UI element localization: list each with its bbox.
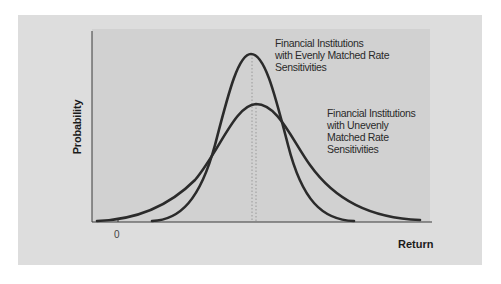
annotation-unevenly-line1: Financial Institutions <box>327 107 416 119</box>
annotation-evenly-line3: Sensitivities <box>275 61 389 73</box>
curve-evenly-matched <box>152 54 354 221</box>
y-axis-label: Probability <box>71 100 83 155</box>
annotation-evenly-line1: Financial Institutions <box>275 37 389 49</box>
annotation-evenly-line2: with Evenly Matched Rate <box>275 49 389 61</box>
annotation-unevenly-line3: Matched Rate <box>327 131 416 143</box>
annotation-unevenly-line4: Sensitivities <box>327 143 416 155</box>
x-tick-label-zero: 0 <box>114 229 120 240</box>
annotation-unevenly-line2: with Unevenly <box>327 119 416 131</box>
x-axis-label: Return <box>398 238 433 250</box>
annotation-unevenly-matched: Financial Institutions with Unevenly Mat… <box>327 107 416 155</box>
annotation-evenly-matched: Financial Institutions with Evenly Match… <box>275 37 389 73</box>
